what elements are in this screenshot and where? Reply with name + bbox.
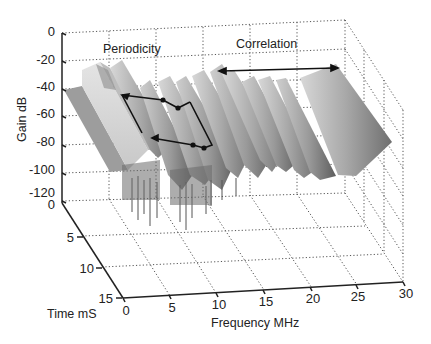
z-axis-label: Gain dB bbox=[15, 97, 29, 142]
svg-text:5: 5 bbox=[168, 300, 175, 315]
correlation-label: Correlation bbox=[236, 37, 297, 51]
svg-text:10: 10 bbox=[212, 297, 226, 312]
surface-chart: Periodicity Correlation 0 -20 -40 -60 -8… bbox=[0, 0, 431, 344]
grid-floor bbox=[82, 193, 403, 296]
svg-text:-60: -60 bbox=[36, 106, 55, 121]
surface bbox=[64, 60, 392, 230]
svg-text:-100: -100 bbox=[29, 162, 55, 177]
time-tick-0: 0 bbox=[48, 197, 55, 212]
svg-text:15: 15 bbox=[259, 294, 273, 309]
svg-text:30: 30 bbox=[399, 286, 413, 301]
svg-text:-20: -20 bbox=[36, 52, 55, 67]
svg-text:-80: -80 bbox=[36, 134, 55, 149]
y-axis-label: Time mS bbox=[47, 307, 97, 321]
svg-text:15: 15 bbox=[99, 291, 113, 306]
svg-text:0: 0 bbox=[48, 24, 55, 39]
svg-text:20: 20 bbox=[306, 291, 320, 306]
y-tick-labels: 5 10 15 bbox=[67, 230, 113, 306]
svg-text:25: 25 bbox=[351, 289, 365, 304]
svg-text:5: 5 bbox=[67, 230, 74, 245]
svg-text:0: 0 bbox=[122, 303, 129, 318]
periodicity-label: Periodicity bbox=[103, 42, 161, 56]
x-tick-labels: 0 5 10 15 20 25 30 bbox=[122, 286, 413, 318]
z-tick-labels: 0 -20 -40 -60 -80 -100 -120 0 bbox=[29, 24, 55, 212]
x-axis-label: Frequency MHz bbox=[211, 316, 299, 330]
svg-text:-40: -40 bbox=[36, 79, 55, 94]
svg-text:10: 10 bbox=[80, 261, 94, 276]
